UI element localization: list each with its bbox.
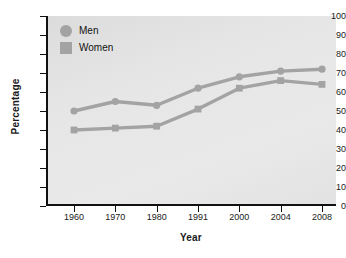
x-axis-title: Year	[46, 232, 336, 243]
y-tick-label: 70	[320, 68, 346, 78]
y-tick-label: 10	[320, 182, 346, 192]
x-tick-label: 2008	[312, 212, 332, 222]
y-axis-title-text: Percentage	[11, 78, 22, 134]
data-point-men	[70, 107, 77, 114]
y-tick-mark	[40, 206, 46, 207]
x-tick-label: 1960	[64, 212, 84, 222]
x-tick-mark	[281, 206, 282, 212]
x-axis-title-text: Year	[180, 232, 202, 243]
y-tick-mark	[40, 16, 46, 17]
data-point-women	[153, 123, 160, 130]
x-tick-label: 1991	[188, 212, 208, 222]
y-tick-label: 60	[320, 87, 346, 97]
x-tick-mark	[74, 206, 75, 212]
x-tick-mark	[115, 206, 116, 212]
legend-item-label: Men	[79, 25, 98, 36]
x-tick-label: 2000	[229, 212, 249, 222]
data-point-women	[277, 77, 284, 84]
x-tick-label: 2004	[271, 212, 291, 222]
x-tick-mark	[198, 206, 199, 212]
y-axis-title: Percentage	[6, 0, 26, 212]
data-point-women	[112, 125, 119, 132]
data-point-men	[153, 102, 160, 109]
data-point-men	[112, 98, 119, 105]
data-point-women	[195, 106, 202, 113]
x-tick-mark	[322, 206, 323, 212]
y-tick-mark	[40, 111, 46, 112]
legend-circle-icon	[60, 25, 72, 37]
x-tick-label: 1980	[147, 212, 167, 222]
chart-figure: Percentage 0102030405060708090100 196019…	[0, 0, 346, 258]
y-tick-mark	[40, 168, 46, 169]
legend-item-label: Women	[79, 42, 113, 53]
y-tick-label: 50	[320, 106, 346, 116]
legend-square-icon	[60, 42, 72, 54]
y-tick-mark	[40, 187, 46, 188]
y-tick-mark	[40, 149, 46, 150]
y-tick-mark	[40, 73, 46, 74]
y-tick-label: 20	[320, 163, 346, 173]
data-point-men	[277, 68, 284, 75]
legend-item-men: Men	[60, 22, 113, 39]
y-tick-label: 100	[320, 11, 346, 21]
y-tick-mark	[40, 130, 46, 131]
chart-legend: MenWomen	[60, 22, 113, 56]
y-tick-mark	[40, 92, 46, 93]
y-tick-label: 30	[320, 144, 346, 154]
y-tick-label: 40	[320, 125, 346, 135]
x-tick-label: 1970	[105, 212, 125, 222]
y-tick-label: 0	[320, 201, 346, 211]
x-tick-mark	[157, 206, 158, 212]
data-point-women	[71, 127, 78, 134]
y-tick-mark	[40, 54, 46, 55]
data-point-men	[236, 73, 243, 80]
x-tick-mark	[239, 206, 240, 212]
y-tick-label: 80	[320, 49, 346, 59]
data-point-men	[194, 85, 201, 92]
data-point-women	[236, 85, 243, 92]
legend-item-women: Women	[60, 39, 113, 56]
y-tick-mark	[40, 35, 46, 36]
y-tick-label: 90	[320, 30, 346, 40]
